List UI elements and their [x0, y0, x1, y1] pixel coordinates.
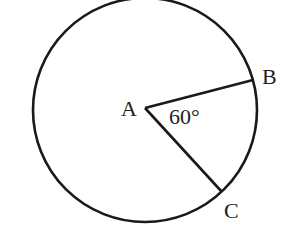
angle-label: 60° [169, 104, 200, 129]
point-label-a: A [121, 96, 137, 121]
point-label-b: B [262, 64, 277, 89]
diagram-canvas: A B C 60° [0, 0, 290, 247]
point-label-c: C [224, 198, 239, 223]
circle [33, 0, 257, 222]
